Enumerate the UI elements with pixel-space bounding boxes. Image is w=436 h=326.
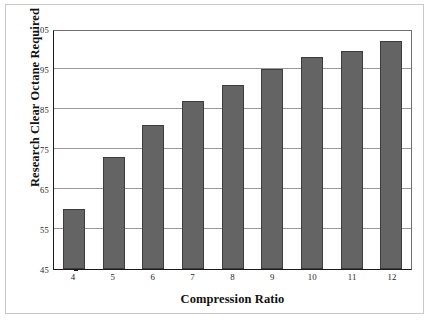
x-tick-label: 5 [93,272,133,288]
bar-slot [94,31,134,269]
x-axis-tick-labels: 456789101112 [53,272,412,288]
bar [103,157,125,269]
x-tick-label: 12 [372,272,412,288]
bar-series [54,31,411,269]
y-tick-label: 65 [40,185,49,195]
bar [182,101,204,269]
x-tick-label: 6 [133,272,173,288]
x-axis-title: Compression Ratio [53,292,412,307]
bar-slot [332,31,372,269]
bar [142,125,164,269]
y-tick-label: 75 [40,145,49,155]
y-tick-label: 45 [40,265,49,275]
bar-slot [133,31,173,269]
plot-area [53,30,412,270]
x-tick-label: 4 [53,272,93,288]
bar [301,57,323,269]
bar [341,51,363,269]
bar [261,69,283,269]
bar [222,85,244,269]
bar [63,209,85,269]
bar-slot [252,31,292,269]
bar-slot [371,31,411,269]
bar-slot [54,31,94,269]
bar-slot [213,31,253,269]
y-tick-label: 105 [36,25,49,35]
x-tick-label: 11 [332,272,372,288]
chart-figure: Research Clear Octane Required 455565758… [0,0,436,326]
x-tick-label: 9 [252,272,292,288]
y-tick-mark [74,270,78,271]
y-tick-label: 85 [40,105,49,115]
x-tick-label: 8 [213,272,253,288]
bar [380,41,402,269]
bar-slot [292,31,332,269]
y-tick-label: 55 [40,225,49,235]
bar-slot [173,31,213,269]
x-tick-label: 7 [173,272,213,288]
y-axis-tick-labels: 455565758595105 [25,30,49,270]
x-tick-label: 10 [292,272,332,288]
y-tick-label: 95 [40,65,49,75]
